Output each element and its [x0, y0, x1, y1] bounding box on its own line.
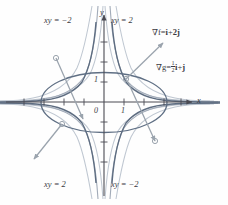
- x-axis-label: x: [197, 96, 201, 105]
- grad-f-label: ∇f=i+2j: [152, 28, 180, 37]
- curve-label-top-left: xy = −2: [44, 16, 72, 25]
- grad-g-j-term: j: [182, 62, 185, 72]
- plot-canvas: [0, 0, 228, 205]
- curve-label-top-right: xy = 2: [111, 16, 133, 25]
- lagrange-multipliers-figure: xy = −2 xy = 2 xy = 2 xy = −2 ∇f=i+2j ∇g…: [0, 0, 228, 205]
- grad-g-label: ∇g=12i+j: [156, 60, 185, 73]
- y-axis-label: y: [100, 8, 104, 17]
- curve-label-bottom-left: xy = 2: [44, 180, 66, 189]
- vector-lower-left: [34, 121, 65, 159]
- y-tick-label-1: 1: [94, 76, 98, 84]
- curve-label-bottom-right: xy = −2: [111, 180, 139, 189]
- grad-f-j-term: 2j: [173, 27, 180, 37]
- grad-f-symbol: ∇f: [152, 27, 161, 37]
- x-tick-label-1: 1: [121, 107, 125, 115]
- origin-label: 0: [94, 107, 98, 115]
- grad-g-symbol: ∇g: [156, 62, 166, 72]
